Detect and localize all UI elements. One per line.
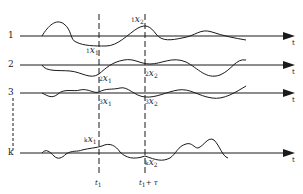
sample-label-r3-x1: 3x1 [99, 97, 112, 108]
realization-label-k: k [8, 148, 13, 157]
realization-label-3: 3 [8, 88, 14, 97]
sample-label-r2-x1: 2x1 [99, 74, 112, 85]
sample-label-r2-x2: 2x2 [145, 69, 158, 80]
sample-label-r3-x2: 3x2 [145, 97, 158, 108]
axis-label-t-1: t [292, 40, 295, 47]
sample-label-rk-x2: kx2 [145, 158, 158, 169]
axis-label-t-3: t [292, 97, 295, 104]
sample-label-r1-x2: 1x2 [131, 15, 144, 26]
waveform-k [42, 139, 228, 160]
waveform-1 [42, 22, 246, 46]
axis-label-t-k: t [292, 157, 295, 164]
axis-label-t-2: t [292, 69, 295, 76]
sample-label-rk-x1: kx1 [84, 135, 97, 146]
sample-label-r1-x1: 1x1 [86, 46, 99, 57]
waveform-3 [42, 86, 246, 98]
time-marker-t1: t1 [95, 180, 102, 188]
realization-label-1: 1 [8, 31, 14, 40]
realization-label-2: 2 [8, 60, 14, 69]
waveform-2 [42, 60, 246, 77]
time-marker-t1-plus-tau: t1+ τ [139, 180, 158, 188]
